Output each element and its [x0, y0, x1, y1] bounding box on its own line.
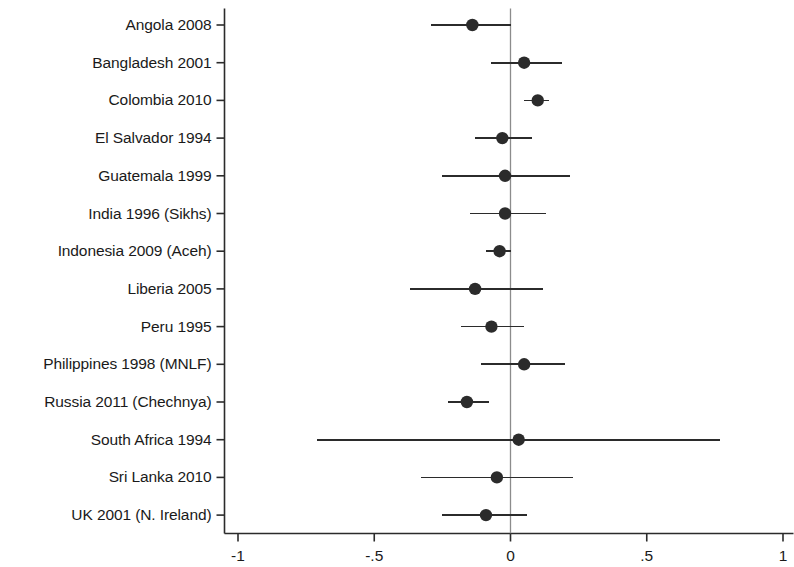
- category-label: Sri Lanka 2010: [109, 470, 212, 486]
- point-estimate-marker: [461, 396, 473, 408]
- category-label: El Salvador 1994: [95, 130, 211, 146]
- point-estimate-marker: [518, 57, 530, 69]
- point-estimate-marker: [485, 320, 497, 332]
- forest-plot: -1-.50.51Angola 2008Bangladesh 2001Colom…: [0, 0, 794, 567]
- category-label: Indonesia 2009 (Aceh): [58, 243, 212, 259]
- category-label: Liberia 2005: [127, 281, 211, 297]
- x-axis-tick-label: .5: [640, 548, 653, 564]
- category-label: Peru 1995: [141, 319, 212, 335]
- category-label: Guatemala 1999: [98, 168, 211, 184]
- point-estimate-marker: [518, 358, 530, 370]
- point-estimate-marker: [512, 434, 524, 446]
- x-axis-tick-label: 1: [779, 548, 788, 564]
- x-axis-tick-label: -.5: [365, 548, 383, 564]
- point-estimate-marker: [532, 94, 544, 106]
- point-estimate-marker: [491, 471, 503, 483]
- x-axis-tick-label: 0: [506, 548, 515, 564]
- category-label: Angola 2008: [126, 17, 212, 33]
- point-estimate-marker: [493, 245, 505, 257]
- category-label: Bangladesh 2001: [92, 55, 211, 71]
- category-label: Colombia 2010: [109, 93, 212, 109]
- point-estimate-marker: [469, 283, 481, 295]
- point-estimate-marker: [466, 19, 478, 31]
- point-estimate-marker: [499, 170, 511, 182]
- category-label: India 1996 (Sikhs): [88, 206, 211, 222]
- category-label: South Africa 1994: [91, 432, 212, 448]
- category-label: Russia 2011 (Chechnya): [44, 394, 211, 410]
- category-label: Philippines 1998 (MNLF): [43, 357, 211, 373]
- point-estimate-marker: [496, 132, 508, 144]
- point-estimate-marker: [499, 207, 511, 219]
- category-label: UK 2001 (N. Ireland): [71, 507, 211, 523]
- point-estimate-marker: [480, 509, 492, 521]
- x-axis-tick-label: -1: [231, 548, 245, 564]
